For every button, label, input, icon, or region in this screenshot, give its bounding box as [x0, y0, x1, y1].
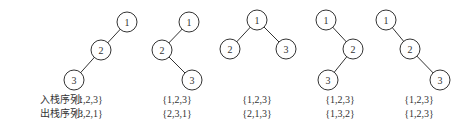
tree-node-label: 2: [99, 45, 104, 56]
binary-trees-diagram: 123123123123123 入栈序列: 出栈序列: {1,2,3}{3,2,…: [0, 0, 470, 130]
push-sequence-value: {1,2,3}: [242, 94, 272, 105]
tree-node-label: 3: [284, 44, 289, 55]
nodes-layer: 123123123123123: [64, 10, 450, 90]
push-sequence-value: {1,2,3}: [325, 94, 355, 105]
tree-node-label: 1: [255, 15, 260, 26]
tree-node-label: 1: [384, 15, 389, 26]
tree-node-label: 2: [160, 45, 165, 56]
pop-sequence-value: {3,2,1}: [73, 108, 103, 119]
tree-node-label: 2: [228, 44, 233, 55]
tree-node-label: 1: [125, 17, 130, 28]
tree-node-label: 3: [438, 75, 443, 86]
push-sequence-value: {1,2,3}: [73, 94, 103, 105]
tree-node-label: 1: [187, 17, 192, 28]
push-sequence-value: {1,2,3}: [162, 94, 192, 105]
tree-2: 123: [152, 12, 202, 90]
tree-4: 123: [316, 10, 363, 90]
pop-sequence-value: {2,3,1}: [162, 108, 192, 119]
push-sequence-value: {1,2,3}: [404, 94, 434, 105]
tree-node-label: 3: [326, 75, 331, 86]
sequence-labels: 入栈序列: 出栈序列: {1,2,3}{3,2,1}{1,2,3}{2,3,1}…: [40, 93, 434, 119]
tree-node-label: 2: [351, 44, 356, 55]
tree-1: 123: [64, 12, 137, 90]
pop-sequence-value: {1,3,2}: [325, 108, 355, 119]
tree-5: 123: [376, 10, 450, 90]
tree-node-label: 2: [408, 44, 413, 55]
tree-node-label: 3: [72, 75, 77, 86]
tree-3: 123: [220, 10, 296, 59]
tree-node-label: 3: [190, 75, 195, 86]
pop-sequence-value: {1,2,3}: [404, 108, 434, 119]
pop-sequence-value: {2,1,3}: [242, 108, 272, 119]
tree-node-label: 1: [324, 15, 329, 26]
